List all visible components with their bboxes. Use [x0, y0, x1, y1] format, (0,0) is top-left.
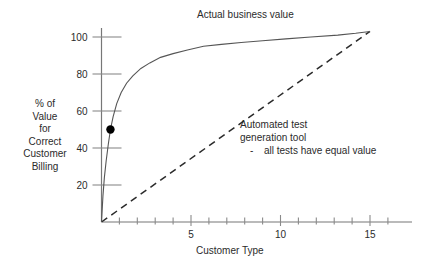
annotation-bullet-dash: -	[250, 144, 264, 157]
annotation-bullet-text: all tests have equal value	[264, 145, 376, 156]
x-axis-ticks	[119, 215, 388, 226]
y-axis-title-line-6: Billing	[6, 161, 84, 174]
y-tick-label-80: 80	[76, 69, 88, 80]
y-tick-label-100: 100	[71, 32, 88, 43]
y-axis-title-line-1: % of	[6, 98, 84, 111]
automated-test-annotation: Automated test generation tool -all test…	[240, 118, 376, 157]
annotation-line-2: generation tool	[240, 131, 376, 144]
x-tick-label-15: 15	[364, 229, 376, 240]
y-axis-title-line-2: Value	[6, 111, 84, 124]
y-axis-title-line-5: Customer	[6, 148, 84, 161]
y-tick-label-20: 20	[76, 180, 88, 191]
annotation-bullet: -all tests have equal value	[240, 144, 376, 157]
x-axis-tick-labels: 51015	[188, 229, 376, 240]
x-axis-title: Customer Type	[196, 245, 264, 256]
correct-billing-point	[106, 125, 114, 133]
x-tick-label-5: 5	[188, 229, 194, 240]
y-axis-ticks	[93, 37, 122, 185]
chart-title: Actual business value	[197, 9, 294, 20]
chart-figure: 20406080100 51015 Actual business value …	[0, 0, 427, 272]
annotation-line-1: Automated test	[240, 118, 376, 131]
x-tick-label-10: 10	[275, 229, 287, 240]
y-axis-title-line-4: Correct	[6, 136, 84, 149]
y-axis-title-line-3: for	[6, 123, 84, 136]
y-axis-title: % of Value for Correct Customer Billing	[6, 98, 84, 174]
data-point-markers	[106, 125, 114, 133]
